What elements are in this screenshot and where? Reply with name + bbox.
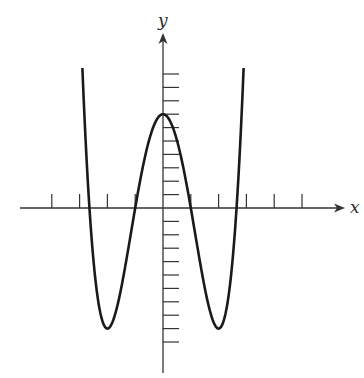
x-axis-label: x — [350, 197, 360, 217]
function-graph: x y — [0, 0, 364, 378]
y-axis-label: y — [157, 10, 168, 30]
